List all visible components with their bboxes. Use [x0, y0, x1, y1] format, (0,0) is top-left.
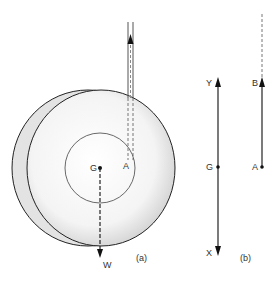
label-a-b: A: [252, 162, 258, 172]
arrowhead-b-icon: [259, 77, 265, 87]
point-a-dot: [260, 165, 264, 169]
arrowhead-y-icon: [215, 77, 221, 87]
label-x: X: [206, 248, 212, 258]
label-g-b: G: [206, 162, 213, 172]
free-body-diagram: Y G X B A (b): [206, 14, 265, 263]
arrowhead-x-icon: [215, 246, 221, 256]
label-y: Y: [206, 78, 212, 88]
label-a-a: A: [123, 161, 129, 171]
spool-force-diagram: G A W (a) Y G X B A (b): [0, 0, 278, 282]
weight-arrowhead-icon: [97, 249, 103, 258]
point-g-dot: [216, 165, 220, 169]
caption-b: (b): [240, 253, 251, 263]
label-g-a: G: [90, 163, 97, 173]
label-w: W: [103, 260, 112, 270]
spool-drawing: G A W (a): [12, 22, 175, 270]
caption-a: (a): [136, 253, 147, 263]
label-b: B: [252, 78, 258, 88]
